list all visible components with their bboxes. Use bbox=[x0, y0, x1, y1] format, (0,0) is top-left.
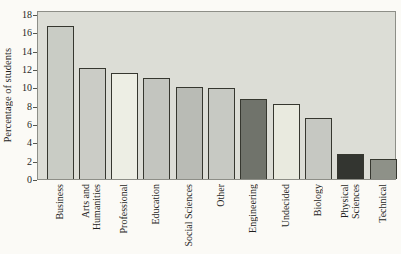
bar-business bbox=[47, 26, 74, 179]
y-tick-label-18: 18 bbox=[10, 9, 32, 21]
bar-arts-and-humanities bbox=[79, 68, 106, 179]
bar-technical bbox=[370, 159, 397, 179]
x-label-biology: Biology bbox=[312, 184, 323, 216]
x-label-other: Other bbox=[215, 184, 226, 207]
y-tick-label-4: 4 bbox=[10, 137, 32, 149]
y-tick-label-6: 6 bbox=[10, 119, 32, 131]
y-tick-label-16: 16 bbox=[10, 27, 32, 39]
x-label-arts-and-humanities: Arts and Humanities bbox=[80, 184, 102, 230]
plot-area bbox=[37, 11, 396, 180]
x-label-professional: Professional bbox=[118, 184, 129, 233]
x-label-physical-sciences: Physical Sciences bbox=[339, 184, 361, 219]
y-tick-label-10: 10 bbox=[10, 82, 32, 94]
y-tick-label-0: 0 bbox=[10, 174, 32, 186]
bar-physical-sciences bbox=[337, 154, 364, 179]
bar-biology bbox=[305, 118, 332, 179]
y-tick-label-14: 14 bbox=[10, 46, 32, 58]
x-label-social-sciences: Social Sciences bbox=[183, 184, 194, 246]
bar-education bbox=[143, 78, 170, 179]
bar-professional bbox=[111, 73, 138, 179]
x-label-undecided: Undecided bbox=[280, 184, 291, 227]
bar-chart-figure: Percentage of students 024681012141618 B… bbox=[0, 0, 401, 254]
x-label-technical: Technical bbox=[377, 184, 388, 223]
x-label-engineering: Engineering bbox=[247, 184, 258, 233]
bar-undecided bbox=[273, 104, 300, 179]
bar-engineering bbox=[240, 99, 267, 179]
y-tick-label-8: 8 bbox=[10, 101, 32, 113]
bar-social-sciences bbox=[176, 87, 203, 179]
bar-other bbox=[208, 88, 235, 179]
x-label-business: Business bbox=[54, 184, 65, 220]
y-tick-label-12: 12 bbox=[10, 64, 32, 76]
x-label-education: Education bbox=[150, 184, 161, 225]
y-tick-label-2: 2 bbox=[10, 156, 32, 168]
y-tick-mark-0 bbox=[33, 180, 37, 181]
